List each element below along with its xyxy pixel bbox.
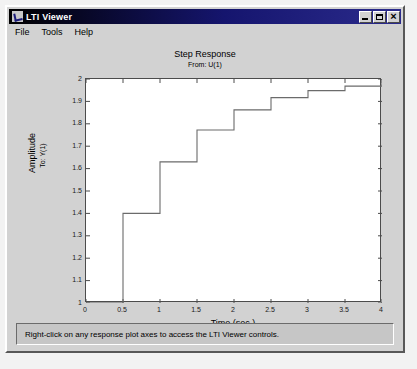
y-tick-label: 2 [58,75,82,82]
screen: LTI Viewer File Tools Help Step Response… [0,0,417,369]
y-tick-label: 1.6 [58,164,82,171]
x-tick-label: 3 [292,306,322,313]
title-bar[interactable]: LTI Viewer [9,9,401,24]
y-tick-label: 1.4 [58,209,82,216]
menu-item-help[interactable]: Help [69,26,100,39]
y-tick-label: 1.5 [58,187,82,194]
x-tick-label: 4 [366,306,396,313]
x-tick-label: 2 [218,306,248,313]
chart-title: Step Response [15,49,395,59]
step-response-line [86,83,382,303]
maximize-button[interactable] [373,11,386,23]
y-tick-label: 1.3 [58,231,82,238]
figure-panel[interactable]: Step Response From: U(1) Amplitude To: Y… [15,40,395,318]
y-tick-label: 1.8 [58,119,82,126]
x-tick-label: 0.5 [107,306,137,313]
x-tick-labels: 00.511.522.533.54 [85,306,381,318]
x-tick-label: 2.5 [255,306,285,313]
y-tick-label: 1.2 [58,254,82,261]
minimize-button[interactable] [359,11,372,23]
y-axis-sublabel: To: Y(1) [39,121,46,191]
x-tick-label: 0 [70,306,100,313]
y-tick-label: 1.9 [58,97,82,104]
x-tick-label: 1 [144,306,174,313]
step-response-plot [86,79,382,303]
y-tick-label: 1.1 [58,276,82,283]
y-tick-labels: 11.11.21.31.41.51.61.71.81.92 [55,78,82,302]
x-tick-label: 3.5 [329,306,359,313]
menu-item-file[interactable]: File [9,26,36,39]
status-message: Right-click on any response plot axes to… [17,330,279,339]
y-tick-label: 1.7 [58,142,82,149]
menu-item-tools[interactable]: Tools [36,26,69,39]
y-axis-label: Amplitude [27,108,37,198]
y-tick-label: 1 [58,299,82,306]
lti-viewer-window: LTI Viewer File Tools Help Step Response… [5,5,405,353]
menu-bar: File Tools Help [9,25,401,39]
close-button[interactable] [387,11,400,23]
x-tick-label: 1.5 [181,306,211,313]
plot-axes[interactable] [85,78,381,302]
chart-subtitle: From: U(1) [15,61,395,68]
status-bar: Right-click on any response plot axes to… [16,323,394,345]
matlab-figure-icon [12,11,23,22]
window-title: LTI Viewer [26,12,358,22]
